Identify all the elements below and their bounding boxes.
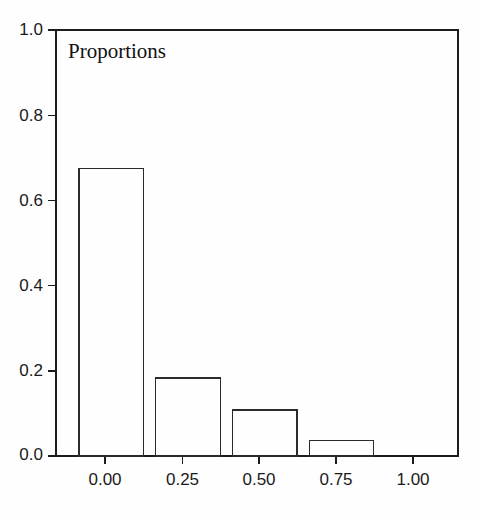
y-tick-label-0-8: 0.8 (19, 106, 43, 125)
bar-series (79, 168, 374, 456)
bar-chart-svg: 1.0 0.8 0.6 0.4 0.2 0.0 0.00 0.25 0.50 0… (0, 0, 480, 519)
bar-0.25 (156, 378, 220, 456)
x-axis-tick-labels: 0.00 0.25 0.50 0.75 1.00 (88, 470, 429, 489)
x-tick-label-0-00: 0.00 (88, 470, 121, 489)
plot-title: Proportions (68, 39, 166, 63)
plot-frame (56, 30, 458, 456)
y-tick-label-0-4: 0.4 (19, 276, 43, 295)
y-tick-label-0-6: 0.6 (19, 191, 43, 210)
x-tick-label-0-50: 0.50 (242, 470, 275, 489)
x-axis-ticks (105, 456, 413, 464)
y-axis-ticks (48, 30, 56, 456)
chart-figure: 1.0 0.8 0.6 0.4 0.2 0.0 0.00 0.25 0.50 0… (0, 0, 480, 519)
bar-0.75 (309, 440, 373, 456)
y-tick-label-0-2: 0.2 (19, 361, 43, 380)
y-axis-tick-labels: 1.0 0.8 0.6 0.4 0.2 0.0 (19, 20, 43, 464)
x-tick-label-0-75: 0.75 (319, 470, 352, 489)
bar-0.50 (232, 410, 296, 456)
bar-0.00 (79, 168, 143, 456)
x-tick-label-0-25: 0.25 (166, 470, 199, 489)
y-tick-label-0-0: 0.0 (19, 445, 43, 464)
x-tick-label-1-00: 1.00 (396, 470, 429, 489)
y-tick-label-1-0: 1.0 (19, 20, 43, 39)
